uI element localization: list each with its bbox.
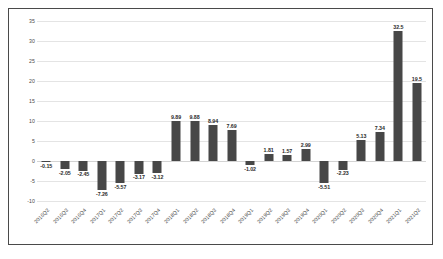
y-axis-tick-label: 20 bbox=[29, 78, 35, 84]
gridline bbox=[37, 201, 426, 202]
bar-slot: -3.12 bbox=[148, 21, 167, 201]
bar[interactable] bbox=[60, 161, 69, 169]
plot-area: -0.15-2.05-2.45-7.26-5.57-3.17-3.129.899… bbox=[37, 21, 426, 201]
y-axis-tick-label: 10 bbox=[29, 118, 35, 124]
bar-value-label: -3.12 bbox=[152, 174, 164, 180]
bar-value-label: -2.23 bbox=[337, 170, 349, 176]
bar[interactable] bbox=[394, 31, 403, 161]
bar-value-label: 1.57 bbox=[282, 148, 292, 154]
bar-slot: 2.99 bbox=[296, 21, 315, 201]
bar-slot: 1.57 bbox=[278, 21, 297, 201]
bar-series: -0.15-2.05-2.45-7.26-5.57-3.17-3.129.899… bbox=[37, 21, 426, 201]
bar[interactable] bbox=[97, 161, 106, 190]
bar-value-label: -2.05 bbox=[59, 170, 71, 176]
bar-value-label: 5.13 bbox=[356, 133, 366, 139]
chart-plot-wrapper: 35302520151050-5-10 -0.15-2.05-2.45-7.26… bbox=[9, 9, 432, 244]
bar[interactable] bbox=[190, 121, 199, 161]
bar-slot: 9.88 bbox=[185, 21, 204, 201]
bar[interactable] bbox=[171, 121, 180, 161]
bar-slot: 8.94 bbox=[204, 21, 223, 201]
bar-value-label: -1.02 bbox=[244, 166, 256, 172]
bar-slot: -1.02 bbox=[241, 21, 260, 201]
x-axis-slot: 2019Q3 bbox=[278, 205, 297, 245]
bar[interactable] bbox=[375, 132, 384, 161]
chart-frame: 35302520151050-5-10 -0.15-2.05-2.45-7.26… bbox=[8, 8, 433, 245]
y-axis-tick-label: -5 bbox=[30, 178, 35, 184]
bar-value-label: -5.51 bbox=[318, 184, 330, 190]
bar[interactable] bbox=[116, 161, 125, 183]
bar-slot: -2.23 bbox=[334, 21, 353, 201]
x-axis-slot: 2017Q1 bbox=[93, 205, 112, 245]
bar[interactable] bbox=[79, 161, 88, 171]
x-axis-slot: 2017Q4 bbox=[148, 205, 167, 245]
y-axis: 35302520151050-5-10 bbox=[15, 9, 35, 244]
bar[interactable] bbox=[338, 161, 347, 170]
bar-value-label: -3.17 bbox=[133, 174, 145, 180]
bar-slot: -2.45 bbox=[74, 21, 93, 201]
x-axis-slot: 2020Q2 bbox=[334, 205, 353, 245]
bar[interactable] bbox=[264, 154, 273, 161]
bar-slot: -5.57 bbox=[111, 21, 130, 201]
bar-slot: -5.51 bbox=[315, 21, 334, 201]
x-axis-slot: 2018Q3 bbox=[204, 205, 223, 245]
x-axis-slot: 2021Q1 bbox=[389, 205, 408, 245]
bar-value-label: -2.45 bbox=[77, 171, 89, 177]
x-axis-tick-label: 2016Q2 bbox=[33, 207, 51, 225]
bar-value-label: 7.34 bbox=[375, 125, 385, 131]
bar-value-label: -7.26 bbox=[96, 191, 108, 197]
x-axis-slot: 2018Q2 bbox=[185, 205, 204, 245]
bar-slot: 19.5 bbox=[408, 21, 427, 201]
bar-value-label: 9.88 bbox=[189, 114, 199, 120]
bar-slot: 1.81 bbox=[259, 21, 278, 201]
bar-slot: -3.17 bbox=[130, 21, 149, 201]
bar-slot: 7.34 bbox=[371, 21, 390, 201]
y-axis-tick-label: 5 bbox=[32, 138, 35, 144]
x-axis: 2016Q22016Q32016Q42017Q12017Q22017Q32017… bbox=[37, 205, 426, 245]
x-axis-slot: 2021Q2 bbox=[408, 205, 427, 245]
x-axis-slot: 2016Q2 bbox=[37, 205, 56, 245]
y-axis-tick-label: 25 bbox=[29, 58, 35, 64]
x-axis-slot: 2020Q1 bbox=[315, 205, 334, 245]
bar-value-label: 19.5 bbox=[412, 76, 422, 82]
bar[interactable] bbox=[283, 155, 292, 161]
bar-value-label: -0.15 bbox=[40, 163, 52, 169]
bar-slot: -2.05 bbox=[56, 21, 75, 201]
x-axis-slot: 2017Q2 bbox=[111, 205, 130, 245]
x-axis-slot: 2016Q3 bbox=[56, 205, 75, 245]
bar[interactable] bbox=[357, 140, 366, 161]
bar[interactable] bbox=[412, 83, 421, 161]
bar[interactable] bbox=[227, 130, 236, 161]
x-axis-slot: 2019Q4 bbox=[296, 205, 315, 245]
y-axis-tick-label: 0 bbox=[32, 158, 35, 164]
x-axis-slot: 2018Q4 bbox=[222, 205, 241, 245]
x-axis-slot: 2020Q4 bbox=[371, 205, 390, 245]
x-axis-slot: 2019Q2 bbox=[259, 205, 278, 245]
bar-value-label: 2.99 bbox=[301, 142, 311, 148]
bar-value-label: 32.5 bbox=[393, 24, 403, 30]
bar-slot: -7.26 bbox=[93, 21, 112, 201]
bar[interactable] bbox=[301, 149, 310, 161]
x-axis-slot: 2019Q1 bbox=[241, 205, 260, 245]
bar[interactable] bbox=[209, 125, 218, 161]
bar-value-label: 9.89 bbox=[171, 114, 181, 120]
x-axis-slot: 2020Q3 bbox=[352, 205, 371, 245]
y-axis-tick-label: -10 bbox=[27, 198, 35, 204]
y-axis-tick-label: 30 bbox=[29, 38, 35, 44]
x-axis-slot: 2017Q3 bbox=[130, 205, 149, 245]
bar-slot: 32.5 bbox=[389, 21, 408, 201]
bar[interactable] bbox=[153, 161, 162, 173]
y-axis-tick-label: 15 bbox=[29, 98, 35, 104]
bar-slot: -0.15 bbox=[37, 21, 56, 201]
bar[interactable] bbox=[246, 161, 255, 165]
bar-slot: 7.69 bbox=[222, 21, 241, 201]
y-axis-tick-label: 35 bbox=[29, 18, 35, 24]
bar-slot: 9.89 bbox=[167, 21, 186, 201]
x-axis-slot: 2018Q1 bbox=[167, 205, 186, 245]
bar-value-label: -5.57 bbox=[114, 184, 126, 190]
bar[interactable] bbox=[134, 161, 143, 174]
bar[interactable] bbox=[320, 161, 329, 183]
bar-value-label: 7.69 bbox=[227, 123, 237, 129]
bar-slot: 5.13 bbox=[352, 21, 371, 201]
bar-value-label: 1.81 bbox=[264, 147, 274, 153]
bar-value-label: 8.94 bbox=[208, 118, 218, 124]
